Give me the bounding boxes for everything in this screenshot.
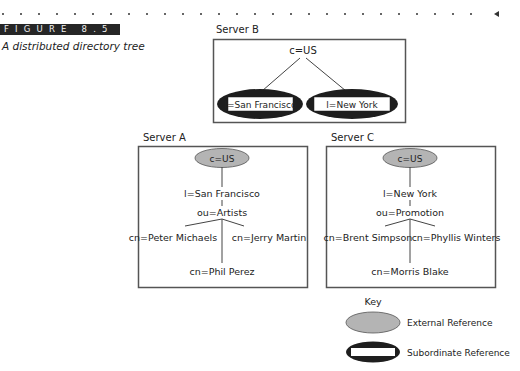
person-node: cn=Peter Michaels (129, 232, 217, 243)
locality-node: l=San Francisco (184, 188, 260, 199)
person-node: cn=Phil Perez (189, 266, 254, 277)
server-c-title: Server C (331, 132, 374, 143)
server-a-title: Server A (143, 132, 186, 143)
server-b: Server B c=US l=San Francisco l=New York (214, 24, 406, 123)
subordinate-ref-newyork: l=New York (306, 89, 398, 119)
legend-title: Key (364, 296, 382, 307)
org-unit-node: ou=Promotion (376, 207, 444, 218)
svg-text:c=US: c=US (210, 154, 235, 164)
server-b-title: Server B (216, 24, 259, 35)
svg-text:External Reference: External Reference (407, 318, 493, 328)
external-ref-root: c=US (195, 149, 249, 168)
figure-label: FIGURE 8.5 (4, 24, 114, 35)
locality-node: l=New York (383, 188, 438, 199)
org-unit-node: ou=Artists (197, 207, 247, 218)
diagram-canvas: Server B c=US l=San Francisco l=New York… (0, 0, 520, 371)
subordinate-ref-sanfrancisco: l=San Francisco (217, 89, 303, 119)
server-a: Server A c=US l=San Francisco ou=Artists… (129, 132, 308, 288)
person-node: cn=Morris Blake (371, 266, 449, 277)
legend: Key External Reference Subordinate Refer… (346, 296, 510, 363)
legend-item-subordinate: Subordinate Reference (346, 342, 510, 363)
person-node: cn=Brent Simpson (324, 232, 413, 243)
person-node: cn=Phyllis Winters (412, 232, 501, 243)
person-node: cn=Jerry Martin (232, 232, 306, 243)
svg-text:l=San Francisco: l=San Francisco (225, 100, 297, 110)
figure-caption: A distributed directory tree (2, 40, 145, 52)
triangle-marker-icon (494, 11, 499, 17)
external-reference-swatch-icon (346, 312, 400, 333)
server-c: Server C c=US l=New York ou=Promotion cn… (324, 132, 501, 288)
external-ref-root: c=US (383, 149, 437, 168)
legend-item-external: External Reference (346, 312, 493, 333)
svg-text:c=US: c=US (398, 154, 423, 164)
svg-text:l=New York: l=New York (326, 100, 378, 110)
svg-text:Subordinate Reference: Subordinate Reference (407, 348, 510, 358)
server-b-root: c=US (289, 45, 317, 56)
dotted-rule (2, 11, 499, 17)
